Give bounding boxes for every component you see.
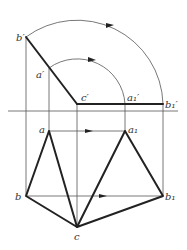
rotation-diagram: b′ a′ c′ a₁′ b₁′ a a₁ b b₁ c [0,0,187,250]
label-b: b [15,191,21,202]
label-c: c [74,231,80,242]
translate-b-arrow-icon [99,194,107,198]
large-arc-arrow-icon [106,23,114,28]
label-b-prime: b′ [16,32,25,43]
label-a: a [39,124,45,135]
label-a1-prime: a₁′ [127,92,140,103]
translate-a-arrow-icon [85,129,93,133]
triangle-a1b1c [77,131,163,227]
label-c-prime: c′ [81,92,90,103]
label-a-prime: a′ [36,69,45,80]
edge-b-prime-c-prime [26,37,77,104]
label-b1: b₁ [165,191,175,202]
label-a1: a₁ [128,124,138,135]
label-b1-prime: b₁′ [165,99,178,110]
triangle-abc [26,131,77,227]
